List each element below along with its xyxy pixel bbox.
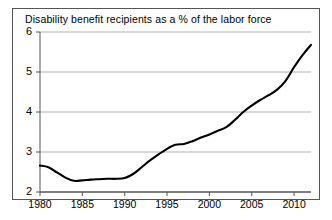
data-series-line	[40, 45, 311, 181]
xtick-label-2000: 2000	[189, 198, 229, 210]
ytick-label-6: 6	[18, 25, 32, 37]
ytick-label-3: 3	[18, 145, 32, 157]
xtick-label-1995: 1995	[147, 198, 187, 210]
xtick-label-1985: 1985	[62, 198, 102, 210]
ytick-label-4: 4	[18, 105, 32, 117]
plot-area	[0, 0, 332, 220]
xtick-label-2010: 2010	[274, 198, 314, 210]
xtick-label-2005: 2005	[232, 198, 272, 210]
x-axis-ticks	[40, 192, 294, 196]
ytick-label-2: 2	[18, 185, 32, 197]
xtick-label-1990: 1990	[105, 198, 145, 210]
chart-figure: Disability benefit recipients as a % of …	[0, 0, 332, 220]
y-axis-ticks	[36, 32, 40, 192]
gridlines	[40, 32, 311, 192]
ytick-label-5: 5	[18, 65, 32, 77]
xtick-label-1980: 1980	[20, 198, 60, 210]
